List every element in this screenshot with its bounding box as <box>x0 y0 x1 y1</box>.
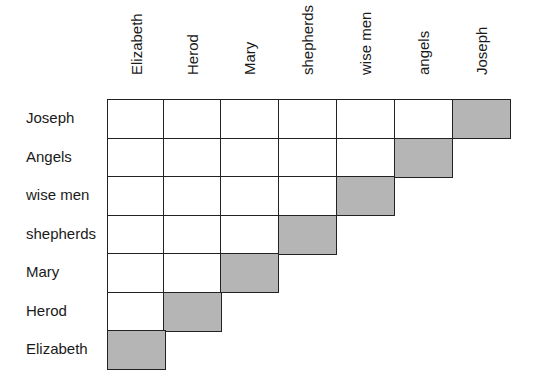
grid-cell[interactable] <box>107 176 166 216</box>
column-label: shepherds <box>298 5 315 75</box>
column-header-shepherds: shepherds <box>278 4 335 92</box>
grid-cell[interactable] <box>107 253 166 293</box>
column-header-joseph: Joseph <box>452 4 509 92</box>
grid-cell[interactable] <box>220 176 279 216</box>
grid-cell[interactable] <box>278 176 337 216</box>
row-label-herod: Herod <box>26 292 67 330</box>
grid-cell[interactable] <box>107 138 166 178</box>
grid-cell[interactable] <box>278 138 337 178</box>
column-label: wise men <box>356 12 373 75</box>
column-header-herod: Herod <box>163 4 220 92</box>
diagonal-cell[interactable] <box>163 292 222 332</box>
grid-cell[interactable] <box>107 99 166 139</box>
row-label-mary: Mary <box>26 253 59 291</box>
column-header-wise-men: wise men <box>336 4 393 92</box>
diagonal-cell[interactable] <box>452 99 511 139</box>
grid-cell[interactable] <box>336 138 395 178</box>
row-label-elizabeth: Elizabeth <box>26 330 88 368</box>
diagonal-cell[interactable] <box>394 138 453 178</box>
column-label: Mary <box>240 42 257 75</box>
diagonal-cell[interactable] <box>107 330 166 370</box>
column-header-angels: angels <box>394 4 451 92</box>
column-header-mary: Mary <box>220 4 277 92</box>
grid-cell[interactable] <box>163 215 222 255</box>
grid-cell[interactable] <box>336 99 395 139</box>
grid-cell[interactable] <box>107 215 166 255</box>
column-label: Herod <box>183 34 200 75</box>
grid-cell[interactable] <box>163 176 222 216</box>
row-label-joseph: Joseph <box>26 99 74 137</box>
row-label-shepherds: shepherds <box>26 215 96 253</box>
column-header-elizabeth: Elizabeth <box>107 4 164 92</box>
grid-cell[interactable] <box>220 99 279 139</box>
grid-cell[interactable] <box>278 99 337 139</box>
grid-cell[interactable] <box>107 292 166 332</box>
row-label-angels: Angels <box>26 138 72 176</box>
grid-cell[interactable] <box>394 99 453 139</box>
grid-cell[interactable] <box>163 253 222 293</box>
grid-cell[interactable] <box>220 138 279 178</box>
diagonal-cell[interactable] <box>220 253 279 293</box>
column-label: Joseph <box>472 27 489 75</box>
grid-cell[interactable] <box>163 99 222 139</box>
column-label: angels <box>414 31 431 75</box>
grid-cell[interactable] <box>220 215 279 255</box>
diagonal-cell[interactable] <box>278 215 337 255</box>
row-label-wise-men: wise men <box>26 176 89 214</box>
grid-cell[interactable] <box>163 138 222 178</box>
diagonal-cell[interactable] <box>336 176 395 216</box>
column-label: Elizabeth <box>127 13 144 75</box>
